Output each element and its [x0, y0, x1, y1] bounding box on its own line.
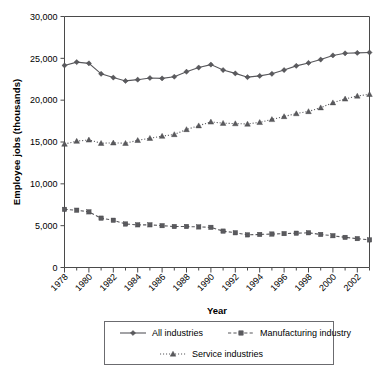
data-point-marker: [74, 59, 79, 64]
legend-item-all-industries[interactable]: All industries: [120, 328, 204, 338]
data-point-marker: [306, 60, 311, 65]
series-service-industries: [62, 92, 373, 147]
data-point-marker: [233, 121, 239, 126]
y-tick-label: 25,000: [30, 54, 58, 64]
y-tick-label: 10,000: [30, 179, 58, 189]
data-point-marker: [87, 210, 91, 214]
data-point-marker: [86, 137, 92, 142]
data-point-marker: [160, 223, 164, 227]
data-point-marker: [239, 331, 243, 335]
data-point-marker: [342, 96, 348, 101]
data-point-marker: [233, 231, 237, 235]
data-point-marker: [136, 223, 140, 227]
data-point-marker: [355, 236, 359, 240]
data-point-marker: [306, 231, 310, 235]
data-point-marker: [367, 92, 373, 97]
data-point-marker: [245, 121, 251, 126]
data-point-marker: [196, 123, 202, 128]
data-point-marker: [74, 138, 80, 143]
data-point-marker: [294, 63, 299, 68]
data-point-marker: [367, 238, 371, 242]
data-point-marker: [184, 224, 188, 228]
data-point-marker: [172, 224, 176, 228]
legend-item-service-industries[interactable]: Service industries: [160, 349, 264, 359]
x-tick-label: 1986: [146, 272, 167, 293]
data-point-marker: [245, 233, 249, 237]
x-tick-label: 2002: [341, 272, 362, 293]
y-tick-label: 15,000: [30, 137, 58, 147]
legend-item-manufacturing-industry[interactable]: Manufacturing industry: [228, 328, 352, 338]
data-point-marker: [330, 100, 336, 105]
data-point-marker: [330, 53, 335, 58]
series-manufacturing-industry: [62, 207, 371, 242]
data-point-marker: [172, 74, 177, 79]
x-tick-label: 1980: [73, 272, 94, 293]
employee-jobs-line-chart: Employee jobs (thousands) 30,00025,00020…: [0, 0, 380, 372]
data-point-marker: [331, 234, 335, 238]
data-point-marker: [209, 225, 213, 229]
data-point-marker: [294, 231, 298, 235]
data-point-marker: [319, 232, 323, 236]
data-point-marker: [355, 50, 360, 55]
data-point-marker: [220, 120, 226, 125]
data-point-marker: [355, 93, 361, 98]
x-tick-label: 1996: [268, 272, 289, 293]
data-point-marker: [294, 111, 300, 116]
x-tick-label: 1998: [293, 272, 314, 293]
x-tick-label: 1982: [97, 272, 118, 293]
data-point-marker: [197, 225, 201, 229]
data-point-marker: [159, 133, 165, 138]
data-point-marker: [111, 218, 115, 222]
data-point-marker: [282, 231, 286, 235]
y-axis-title-text: Employee jobs (thousands): [11, 79, 22, 206]
x-tick-label: 1992: [219, 272, 240, 293]
data-point-marker: [123, 222, 127, 226]
x-axis-title: Year: [207, 305, 227, 316]
series-line: [65, 94, 370, 144]
x-axis-ticks: 1978198019821984198619881990199219941996…: [49, 268, 363, 294]
data-point-marker: [343, 235, 347, 239]
legend-items: All industriesManufacturing industryServ…: [120, 328, 352, 359]
data-point-marker: [62, 207, 66, 211]
y-tick-label: 20,000: [30, 95, 58, 105]
y-tick-label: 0: [52, 263, 57, 273]
data-point-marker: [172, 132, 178, 137]
legend-label: All industries: [152, 328, 204, 338]
data-point-marker: [233, 71, 238, 76]
x-tick-label: 1988: [171, 272, 192, 293]
legend-label: Manufacturing industry: [260, 328, 352, 338]
data-point-marker: [208, 62, 213, 67]
chart-canvas: Employee jobs (thousands) 30,00025,00020…: [0, 0, 380, 372]
data-point-marker: [282, 67, 287, 72]
y-tick-label: 5,000: [35, 221, 58, 231]
y-axis-ticks: 30,00025,00020,00015,00010,0005,0000: [30, 12, 65, 273]
data-point-marker: [147, 135, 153, 140]
data-point-marker: [258, 232, 262, 236]
data-point-marker: [343, 51, 348, 56]
legend: All industriesManufacturing industryServ…: [105, 322, 352, 365]
data-point-marker: [257, 73, 262, 78]
data-point-marker: [62, 63, 67, 68]
x-tick-label: 1984: [122, 272, 143, 293]
data-point-marker: [281, 114, 287, 119]
data-point-marker: [208, 119, 214, 124]
data-point-marker: [111, 75, 116, 80]
x-tick-label: 1994: [244, 272, 265, 293]
series-all-industries: [62, 50, 372, 84]
data-point-marker: [245, 75, 250, 80]
x-tick-label: 2000: [317, 272, 338, 293]
data-point-marker: [130, 330, 135, 335]
data-point-marker: [147, 75, 152, 80]
series-line: [65, 52, 370, 80]
y-axis-title: Employee jobs (thousands): [11, 79, 22, 206]
data-point-marker: [269, 71, 274, 76]
data-point-marker: [123, 78, 128, 83]
series-layer: [62, 50, 373, 242]
data-point-marker: [184, 69, 189, 74]
data-point-marker: [318, 105, 324, 110]
data-point-marker: [99, 216, 103, 220]
data-point-marker: [75, 208, 79, 212]
data-point-marker: [306, 109, 312, 114]
legend-label: Service industries: [192, 349, 264, 359]
x-tick-label: 1990: [195, 272, 216, 293]
